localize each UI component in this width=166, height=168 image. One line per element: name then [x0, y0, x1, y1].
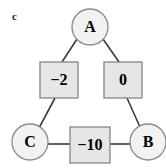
- graph-canvas: [0, 0, 166, 168]
- edge-line-weight-zero-to-b: [127, 98, 140, 127]
- weight-box-a-c: [40, 62, 78, 98]
- edge-line-a-to-weight-minus2: [62, 39, 77, 62]
- node-circle-a: [72, 9, 108, 45]
- figure-panel-c: c A C B −2 0 −10: [0, 0, 166, 168]
- weight-box-a-b: [104, 62, 142, 98]
- edge-line-weight-minus2-to-c: [39, 98, 55, 128]
- weight-boxes: [40, 62, 142, 163]
- weight-box-c-b: [70, 127, 110, 163]
- panel-label: c: [12, 11, 17, 22]
- node-circle-c: [12, 124, 48, 160]
- node-circle-b: [130, 124, 166, 160]
- edge-line-a-to-weight-zero: [103, 39, 119, 62]
